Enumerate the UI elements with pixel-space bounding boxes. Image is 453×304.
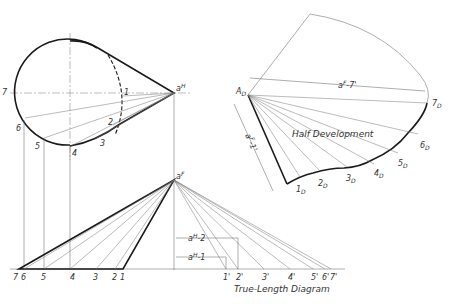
half-development: aF-7' aF-1' AD Half Development 1D 2D 3D… bbox=[234, 14, 442, 195]
dev-point-4: 4D bbox=[374, 169, 384, 179]
top-point-5: 5 bbox=[35, 142, 40, 151]
top-apex-label: aH bbox=[176, 82, 186, 93]
tl-point-6: 6' bbox=[322, 273, 329, 282]
top-view: 7 6 5 4 3 2 1 aH bbox=[2, 33, 190, 270]
cone-outline bbox=[70, 41, 174, 146]
dim-aF7: aF-7' bbox=[338, 79, 357, 90]
dev-point-2: 2D bbox=[318, 179, 328, 189]
front-point-5: 5 bbox=[41, 273, 46, 282]
tl-point-2: 2' bbox=[236, 273, 243, 282]
development-arc bbox=[287, 103, 427, 184]
front-point-7: 7 bbox=[13, 273, 19, 282]
front-cone-outline bbox=[19, 180, 174, 269]
top-point-7: 7 bbox=[2, 88, 8, 97]
front-point-4: 4 bbox=[70, 273, 75, 282]
true-length-title: True-Length Diagram bbox=[234, 284, 330, 294]
base-circle bbox=[15, 39, 97, 145]
tl-point-5: 5' bbox=[311, 273, 318, 282]
tl-point-7: 7' bbox=[330, 273, 337, 282]
dim-aH1: aH-1 bbox=[188, 251, 205, 262]
dev-point-1: 1D bbox=[296, 185, 306, 195]
dev-apex-label: AD bbox=[235, 87, 246, 97]
front-point-3: 3 bbox=[93, 273, 98, 282]
dim-aH2: aH-2 bbox=[188, 232, 205, 243]
front-apex-label: aF bbox=[176, 170, 185, 181]
cone-development-drawing: 7 6 5 4 3 2 1 aH 7 6 5 4 3 2 1 aF bbox=[0, 0, 453, 304]
tl-point-4: 4' bbox=[288, 273, 295, 282]
top-point-3: 3 bbox=[100, 139, 105, 148]
front-view: 7 6 5 4 3 2 1 aF bbox=[10, 170, 345, 282]
dev-point-5: 5D bbox=[398, 159, 408, 169]
top-point-1: 1 bbox=[124, 88, 129, 97]
dev-point-6: 6D bbox=[420, 141, 430, 151]
front-point-2: 2 bbox=[112, 273, 117, 282]
tl-point-1: 1' bbox=[223, 273, 230, 282]
top-point-2: 2 bbox=[108, 118, 113, 127]
front-point-1: 1 bbox=[120, 273, 125, 282]
dev-point-7: 7D bbox=[432, 99, 442, 109]
dim-aF1: aF-1' bbox=[243, 131, 261, 152]
true-length-diagram: aH-2 aH-1 1' 2' 3' 4' 5' 6' 7' True-Leng… bbox=[174, 180, 337, 294]
dev-point-3: 3D bbox=[346, 174, 356, 184]
top-point-6: 6 bbox=[16, 124, 21, 133]
tl-point-3: 3' bbox=[262, 273, 269, 282]
front-view-rays bbox=[24, 180, 174, 269]
front-point-6: 6 bbox=[21, 273, 26, 282]
top-point-4: 4 bbox=[72, 149, 77, 158]
half-development-title: Half Development bbox=[292, 129, 374, 139]
